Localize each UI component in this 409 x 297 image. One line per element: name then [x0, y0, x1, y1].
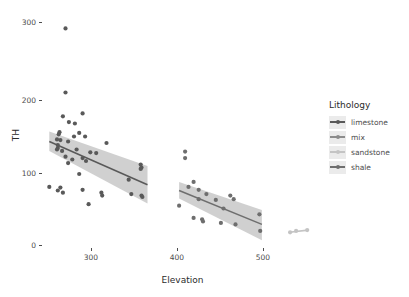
data-point	[232, 197, 236, 201]
x-tick-mark	[177, 248, 178, 251]
data-point	[204, 192, 208, 196]
x-axis-title: Elevation	[0, 275, 365, 285]
legend-key-swatch	[329, 161, 346, 174]
y-tick-mark	[39, 100, 42, 101]
data-point	[88, 150, 92, 154]
scatter-points	[47, 26, 309, 234]
confidence-band	[179, 182, 262, 240]
data-point	[127, 178, 131, 182]
confidence-bands	[49, 131, 262, 240]
legend-item[interactable]: mix	[329, 130, 407, 144]
plot-panel	[45, 14, 320, 246]
data-point	[257, 212, 261, 216]
plot-svg	[45, 14, 320, 246]
data-point	[183, 156, 187, 160]
data-point	[66, 139, 70, 143]
legend-item-label: sandstone	[351, 148, 390, 157]
legend-title: Lithology	[329, 100, 407, 110]
data-point	[177, 204, 181, 208]
y-tick-mark	[39, 173, 42, 174]
chart-root: 300 200 100 0 300 400 500 Elevation TH L…	[0, 0, 409, 297]
data-point	[55, 147, 59, 151]
legend-item-label: mix	[351, 133, 365, 142]
data-point	[56, 188, 60, 192]
data-point	[288, 230, 292, 234]
data-point	[183, 150, 187, 154]
data-point	[47, 185, 51, 189]
legend-item-label: shale	[351, 163, 371, 172]
data-point	[233, 222, 237, 226]
data-point	[81, 111, 85, 115]
data-point	[84, 159, 88, 163]
y-tick-mark	[39, 245, 42, 246]
data-point	[77, 172, 81, 176]
data-point	[192, 180, 196, 184]
x-tick-mark	[263, 248, 264, 251]
data-point	[83, 134, 87, 138]
x-tick-mark	[91, 248, 92, 251]
data-point	[140, 195, 144, 199]
data-point	[58, 138, 62, 142]
data-point	[214, 198, 218, 202]
data-point	[63, 26, 67, 30]
x-tick-label: 400	[162, 253, 192, 262]
data-point	[305, 228, 309, 232]
data-point	[197, 197, 201, 201]
data-point	[192, 216, 196, 220]
data-point	[228, 194, 232, 198]
legend: Lithology limestonemixsandstoneshale	[329, 100, 407, 175]
data-point	[57, 132, 61, 136]
y-tick-label: 300	[10, 18, 36, 27]
data-point	[66, 161, 70, 165]
data-point	[81, 188, 85, 192]
data-point	[294, 229, 298, 233]
legend-item-label: limestone	[351, 118, 388, 127]
data-point	[63, 155, 67, 159]
legend-key-swatch	[329, 116, 346, 129]
data-point	[77, 131, 81, 135]
data-point	[201, 219, 205, 223]
data-point	[72, 134, 76, 138]
y-tick-label: 100	[10, 169, 36, 178]
data-point	[61, 114, 65, 118]
data-point	[73, 121, 77, 125]
y-tick-mark	[39, 22, 42, 23]
legend-item[interactable]: shale	[329, 160, 407, 174]
data-point	[87, 202, 91, 206]
data-point	[70, 157, 74, 161]
data-point	[94, 151, 98, 155]
data-point	[221, 206, 225, 210]
data-point	[197, 188, 201, 192]
data-point	[63, 90, 67, 94]
y-axis-title: TH	[11, 115, 21, 155]
legend-item[interactable]: limestone	[329, 115, 407, 129]
data-point	[129, 192, 133, 196]
y-tick-label: 200	[10, 96, 36, 105]
legend-items: limestonemixsandstoneshale	[329, 115, 407, 174]
legend-key-swatch	[329, 146, 346, 159]
data-point	[75, 147, 79, 151]
legend-key-swatch	[329, 131, 346, 144]
data-point	[219, 221, 223, 225]
data-point	[186, 185, 190, 189]
x-tick-label: 500	[248, 253, 278, 262]
data-point	[104, 141, 108, 145]
data-point	[67, 120, 71, 124]
data-point	[81, 156, 85, 160]
data-point	[139, 167, 143, 171]
data-point	[60, 149, 64, 153]
data-point	[258, 229, 262, 233]
data-point	[61, 191, 65, 195]
legend-item[interactable]: sandstone	[329, 145, 407, 159]
data-point	[100, 194, 104, 198]
x-tick-label: 300	[76, 253, 106, 262]
y-tick-label: 0	[10, 241, 36, 250]
